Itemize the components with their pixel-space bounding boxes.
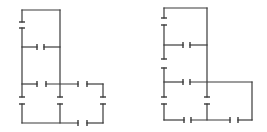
circuit-right [161, 8, 252, 123]
capacitor-icon [183, 42, 190, 48]
capacitor-icon [204, 97, 210, 104]
circuit-diagrams-canvas [0, 0, 267, 132]
capacitor-icon [78, 81, 87, 87]
capacitor-icon [37, 44, 44, 50]
capacitor-icon [19, 97, 25, 104]
capacitor-icon [37, 81, 46, 87]
capacitor-icon [230, 117, 238, 123]
capacitor-icon [78, 120, 87, 126]
capacitor-icon [100, 97, 106, 104]
circuit-left [19, 10, 106, 126]
capacitor-icon [161, 18, 167, 25]
capacitor-icon [184, 117, 191, 123]
capacitor-icon [161, 59, 167, 68]
capacitor-icon [183, 79, 190, 85]
capacitor-icon [161, 97, 167, 104]
capacitor-icon [57, 97, 63, 104]
capacitor-icon [19, 22, 25, 28]
